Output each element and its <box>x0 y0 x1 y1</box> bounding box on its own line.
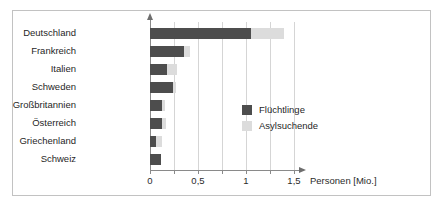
bar-segment-fluechtlinge <box>150 46 184 57</box>
gridline <box>198 22 199 170</box>
x-axis-tick <box>246 170 247 174</box>
legend-swatch-icon <box>242 105 252 115</box>
bar-segment-asylsuchende <box>251 28 285 39</box>
x-axis-tick <box>174 170 175 174</box>
bar-row: Großbritannien <box>13 100 430 111</box>
legend-swatch-icon <box>242 121 252 131</box>
category-label: Großbritannien <box>0 99 76 111</box>
x-axis-tick <box>270 170 271 174</box>
x-axis-tick <box>198 170 199 174</box>
x-axis-arrow-icon <box>299 167 306 173</box>
bar-segment-asylsuchende <box>184 46 191 57</box>
bar-segment-fluechtlinge <box>150 154 161 165</box>
legend-label: Flüchtlinge <box>259 104 305 115</box>
bar-row: Italien <box>13 64 430 75</box>
category-label: Griechenland <box>0 135 76 147</box>
bar-segment-fluechtlinge <box>150 118 162 129</box>
chart-frame: 00,511,5 DeutschlandFrankreichItalienSch… <box>12 10 431 196</box>
bar-row: Deutschland <box>13 28 430 39</box>
legend-item: Flüchtlinge <box>242 104 318 115</box>
x-axis-line <box>150 170 299 171</box>
bar-row: Österreich <box>13 118 430 129</box>
category-label: Italien <box>0 63 76 75</box>
x-axis-tick <box>222 170 223 174</box>
bar-row: Schweiz <box>13 154 430 165</box>
legend-item: Asylsuchende <box>242 120 318 131</box>
x-axis-title: Personen [Mio.] <box>310 175 377 186</box>
bar-row: Frankreich <box>13 46 430 57</box>
gridline <box>294 22 295 170</box>
y-axis-arrow-icon <box>147 13 153 20</box>
bar-segment-asylsuchende <box>162 118 166 129</box>
bar-segment-fluechtlinge <box>150 100 162 111</box>
bar-row: Griechenland <box>13 136 430 147</box>
category-label: Schweden <box>0 81 76 93</box>
category-label: Österreich <box>0 117 76 129</box>
chart-legend: FlüchtlingeAsylsuchende <box>242 104 318 136</box>
bar-segment-fluechtlinge <box>150 82 173 93</box>
bar-segment-fluechtlinge <box>150 64 167 75</box>
gridline <box>246 22 247 170</box>
bar-segment-fluechtlinge <box>150 28 251 39</box>
x-axis-tick <box>150 170 151 174</box>
x-axis-tick-label: 1 <box>243 175 248 186</box>
category-label: Deutschland <box>0 27 76 39</box>
x-axis-tick <box>294 170 295 174</box>
x-axis-tick-label: 0,5 <box>191 175 205 186</box>
bar-segment-asylsuchende <box>173 82 176 93</box>
gridline <box>270 22 271 170</box>
category-label: Schweiz <box>0 153 76 165</box>
category-label: Frankreich <box>0 45 76 57</box>
bar-segment-asylsuchende <box>156 136 163 147</box>
x-axis-tick-label: 0 <box>147 175 152 186</box>
bar-segment-asylsuchende <box>162 100 166 111</box>
gridline <box>222 22 223 170</box>
bar-segment-asylsuchende <box>167 64 177 75</box>
bar-row: Schweden <box>13 82 430 93</box>
y-axis-line <box>150 19 151 170</box>
legend-label: Asylsuchende <box>259 120 318 131</box>
x-axis-tick-label: 1,5 <box>287 175 301 186</box>
plot-area: 00,511,5 DeutschlandFrankreichItalienSch… <box>13 11 430 195</box>
gridline <box>174 22 175 170</box>
